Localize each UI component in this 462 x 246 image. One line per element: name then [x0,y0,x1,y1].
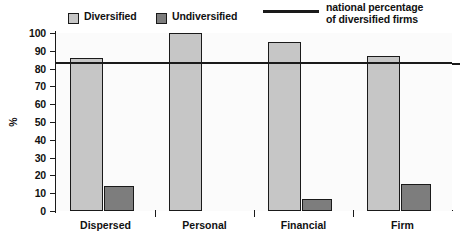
y-axis-tick-label: 0 [2,205,46,217]
x-axis-label-financial: Financial [281,219,327,231]
y-axis-tick-label: 60 [2,98,46,110]
bar-financial-diversified [268,42,301,211]
legend-label-national-line1: national percentage [326,1,423,13]
legend-item-national-percentage: national percentage of diversified firms [263,2,458,25]
bar-dispersed-diversified [70,58,103,211]
x-axis-group-tick [353,210,354,217]
x-axis-group-tick [155,210,156,217]
legend-line-marker-icon [263,10,319,13]
legend-label-undiversified: Undiversified [172,11,237,23]
legend-swatch-dark-icon [156,13,167,24]
bar-chart-figure: Diversified Undiversified national perce… [0,0,462,246]
y-axis-tick-label: 20 [2,169,46,181]
legend-label-national-percentage: national percentage of diversified firms [326,2,458,25]
y-axis-tick-label: 30 [2,152,46,164]
bar-firm-undiversified [401,184,431,211]
y-axis-tick-label: 40 [2,134,46,146]
legend-item-diversified: Diversified [68,11,137,24]
x-axis-group-tick [254,210,255,217]
y-axis-tick [50,211,56,212]
y-axis-tick-label: 80 [2,63,46,75]
legend-swatch-light-icon [68,13,79,24]
bar-firm-diversified [367,56,400,211]
bar-financial-undiversified [302,199,332,211]
legend-item-undiversified: Undiversified [156,11,237,24]
y-axis-tick-label: 10 [2,187,46,199]
legend-label-diversified: Diversified [84,11,137,23]
bar-personal-diversified [169,33,202,211]
x-axis-label-dispersed: Dispersed [80,219,131,231]
national-percentage-reference-line [56,62,452,64]
x-axis-label-personal: Personal [182,219,226,231]
national-percentage-reference-line-extension [452,63,460,65]
chart-legend: Diversified Undiversified national perce… [0,0,462,30]
x-axis-label-firm: Firm [391,219,414,231]
bar-dispersed-undiversified [104,186,134,211]
legend-label-national-line2: of diversified firms [326,13,418,25]
y-axis-tick-label: 100 [2,27,46,39]
plot-area [56,33,452,211]
y-axis-tick-label: 70 [2,80,46,92]
y-axis-tick-label: 90 [2,45,46,57]
y-axis-tick-label: 50 [2,116,46,128]
